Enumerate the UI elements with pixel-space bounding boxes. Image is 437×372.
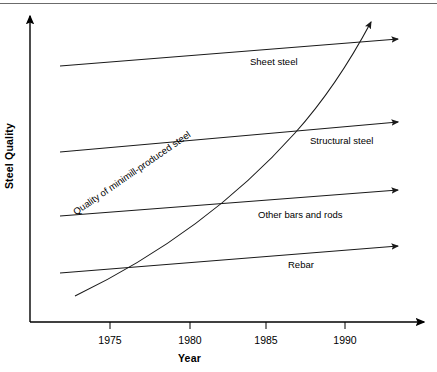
- series-label-structural-steel: Structural steel: [310, 135, 373, 146]
- series-line-rebar: [60, 246, 398, 273]
- x-tick-label-1980: 1980: [167, 334, 213, 346]
- series-label-sheet-steel: Sheet steel: [250, 56, 298, 67]
- x-tick-label-1985: 1985: [243, 334, 289, 346]
- chart-figure: Steel Quality Year 1975 1980 1985 1990 S…: [0, 0, 437, 372]
- x-tick-label-1975: 1975: [87, 334, 133, 346]
- x-tick-label-1990: 1990: [322, 334, 368, 346]
- series-label-rebar: Rebar: [288, 259, 314, 270]
- x-axis-title: Year: [178, 352, 201, 364]
- chart-plot-area: [0, 0, 437, 372]
- series-label-other-bars-and-rods: Other bars and rods: [258, 209, 343, 220]
- series-curve-minimill-produced-steel: [75, 22, 371, 296]
- y-axis-title: Steel Quality: [3, 116, 15, 196]
